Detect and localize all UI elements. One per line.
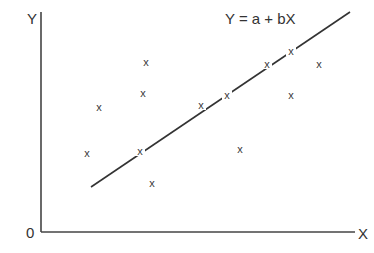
data-point-marker: x xyxy=(288,45,294,57)
data-point-marker: x xyxy=(288,89,294,101)
data-point-marker: x xyxy=(316,58,322,70)
data-point-marker: x xyxy=(84,147,90,159)
regression-line xyxy=(91,12,350,187)
scatter-regression-diagram: xxxxxxxxxxxxx Y 0 X Y = a + bX xyxy=(0,0,374,253)
data-point-marker: x xyxy=(137,145,143,157)
data-point-marker: x xyxy=(96,101,102,113)
data-point-marker: x xyxy=(140,87,146,99)
regression-equation: Y = a + bX xyxy=(225,10,296,27)
data-point-marker: x xyxy=(149,177,155,189)
data-point-marker: x xyxy=(224,89,230,101)
y-axis-label: Y xyxy=(27,10,37,27)
data-points: xxxxxxxxxxxxx xyxy=(82,45,324,189)
data-point-marker: x xyxy=(264,58,270,70)
data-point-marker: x xyxy=(198,99,204,111)
data-point-marker: x xyxy=(143,56,149,68)
data-point-marker: x xyxy=(237,143,243,155)
origin-label: 0 xyxy=(26,224,34,241)
x-axis-label: X xyxy=(358,225,368,242)
